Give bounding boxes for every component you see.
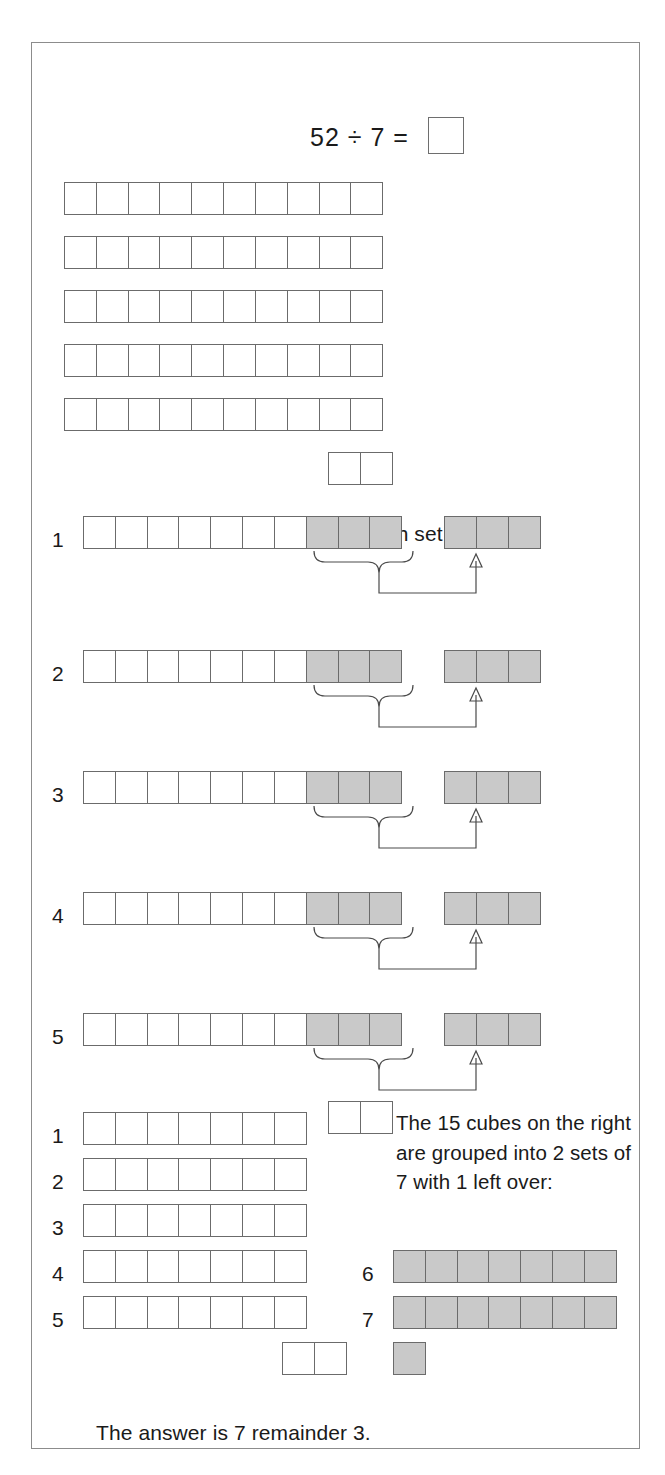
group-strip-row-4 bbox=[83, 1250, 307, 1283]
cube bbox=[96, 236, 129, 269]
cube bbox=[314, 1342, 347, 1375]
cube-gray bbox=[425, 1250, 458, 1283]
cube bbox=[83, 650, 116, 683]
cube bbox=[147, 771, 180, 804]
cube bbox=[287, 344, 320, 377]
cube bbox=[274, 771, 307, 804]
cube bbox=[191, 290, 224, 323]
cube bbox=[274, 516, 307, 549]
cube bbox=[210, 1250, 243, 1283]
cube bbox=[115, 771, 148, 804]
group-row-label-6: 6 bbox=[362, 1263, 374, 1284]
cube-gray bbox=[508, 771, 541, 804]
cube bbox=[282, 1342, 315, 1375]
moved-group-row-5 bbox=[444, 1013, 541, 1046]
cube bbox=[159, 290, 192, 323]
cube-gray bbox=[476, 650, 509, 683]
group-row-label-7: 7 bbox=[362, 1309, 374, 1330]
cube-gray bbox=[520, 1250, 553, 1283]
taken-strip-row-1 bbox=[83, 516, 402, 549]
cube-gray bbox=[444, 516, 477, 549]
cube-strip-row-2 bbox=[64, 236, 383, 269]
taken-strip-row-2 bbox=[83, 650, 402, 683]
worksheet-page: 52 ÷ 7 = 52 cubes: Three cubes are taken… bbox=[0, 0, 665, 1475]
cube bbox=[350, 344, 383, 377]
cube bbox=[178, 650, 211, 683]
cube bbox=[191, 236, 224, 269]
cube bbox=[115, 516, 148, 549]
cube bbox=[210, 1158, 243, 1191]
row-label-2: 2 bbox=[52, 663, 64, 684]
cube bbox=[274, 1296, 307, 1329]
cube bbox=[223, 344, 256, 377]
cube-gray bbox=[508, 1013, 541, 1046]
cube bbox=[96, 398, 129, 431]
cube bbox=[147, 516, 180, 549]
group-row-label-3: 3 bbox=[52, 1217, 64, 1238]
moved-group-row-4 bbox=[444, 892, 541, 925]
taken-strip-row-4 bbox=[83, 892, 402, 925]
cube bbox=[274, 892, 307, 925]
cube bbox=[83, 1204, 116, 1237]
row-label-4: 4 bbox=[52, 905, 64, 926]
cube bbox=[210, 516, 243, 549]
cube bbox=[64, 182, 97, 215]
cube bbox=[83, 771, 116, 804]
cube bbox=[128, 236, 161, 269]
cube-gray bbox=[444, 892, 477, 925]
cube-gray bbox=[306, 892, 339, 925]
cube-gray bbox=[444, 1013, 477, 1046]
group-row-label-4: 4 bbox=[52, 1263, 64, 1284]
cube bbox=[115, 1250, 148, 1283]
cube bbox=[210, 650, 243, 683]
cube-gray bbox=[338, 892, 371, 925]
cube-gray bbox=[338, 1013, 371, 1046]
cube bbox=[83, 1013, 116, 1046]
cube-gray bbox=[306, 650, 339, 683]
cube bbox=[319, 290, 352, 323]
cube-strip-row-5 bbox=[64, 398, 383, 431]
cube-gray bbox=[444, 771, 477, 804]
cube bbox=[350, 182, 383, 215]
cube bbox=[242, 1112, 275, 1145]
cube bbox=[319, 236, 352, 269]
cube bbox=[255, 290, 288, 323]
row-label-5: 5 bbox=[52, 1026, 64, 1047]
taken-strip-row-5 bbox=[83, 1013, 402, 1046]
cube bbox=[115, 1112, 148, 1145]
cube bbox=[96, 344, 129, 377]
cube bbox=[210, 892, 243, 925]
cube bbox=[242, 1158, 275, 1191]
cube bbox=[360, 452, 393, 485]
cube-gray bbox=[369, 1013, 402, 1046]
cube bbox=[242, 1250, 275, 1283]
cube-gray bbox=[306, 771, 339, 804]
cube bbox=[242, 771, 275, 804]
remainder-strip-section-2 bbox=[328, 1101, 393, 1134]
cube-strip-row-1 bbox=[64, 182, 383, 215]
cube bbox=[319, 182, 352, 215]
cube-gray bbox=[369, 771, 402, 804]
cube bbox=[350, 398, 383, 431]
cube bbox=[274, 1112, 307, 1145]
row-label-1: 1 bbox=[52, 529, 64, 550]
cube bbox=[210, 771, 243, 804]
cube bbox=[83, 1296, 116, 1329]
cube bbox=[83, 1158, 116, 1191]
cube bbox=[210, 1204, 243, 1237]
cube bbox=[319, 344, 352, 377]
cube bbox=[242, 516, 275, 549]
cube-gray bbox=[338, 516, 371, 549]
cube-gray bbox=[508, 650, 541, 683]
cube bbox=[360, 1101, 393, 1134]
cube bbox=[210, 1296, 243, 1329]
cube bbox=[178, 1250, 211, 1283]
cube bbox=[83, 516, 116, 549]
cube bbox=[328, 1101, 361, 1134]
cube bbox=[274, 1204, 307, 1237]
cube-gray bbox=[508, 516, 541, 549]
cube-gray bbox=[338, 771, 371, 804]
cube bbox=[147, 1296, 180, 1329]
moved-group-row-3 bbox=[444, 771, 541, 804]
cube-strip-row-3 bbox=[64, 290, 383, 323]
